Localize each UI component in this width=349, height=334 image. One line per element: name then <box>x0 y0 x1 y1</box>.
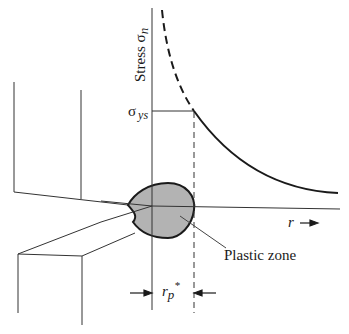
r-direction-arrow <box>300 220 318 226</box>
r-axis-label: r <box>288 214 294 230</box>
plastic-zone-leader <box>180 216 226 248</box>
stress-axis-label: Stress σn <box>132 28 151 82</box>
plastic-zone-label: Plastic zone <box>224 247 296 263</box>
plastic-zone-size-label: rp* <box>162 279 180 302</box>
plastic-zone-diagram: Stress σn σys r Plastic zone rp* <box>0 0 349 334</box>
stress-curve-solid <box>194 111 338 193</box>
yield-stress-label: σys <box>128 103 148 122</box>
stress-curve-dashed <box>162 10 194 111</box>
lower-crack-face-block <box>18 222 135 325</box>
upper-crack-face-block <box>14 82 128 205</box>
